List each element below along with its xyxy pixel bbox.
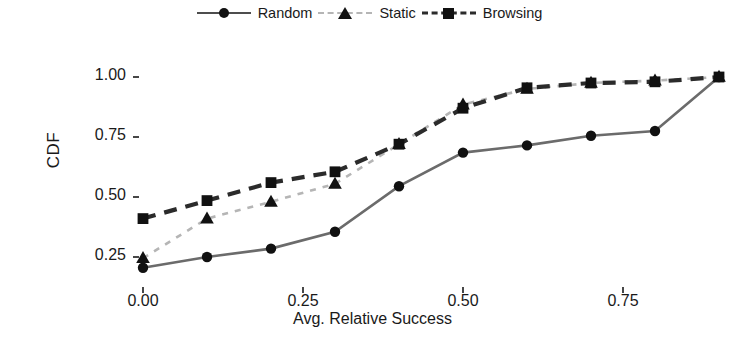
series-static	[143, 77, 719, 258]
data-point-circle	[394, 181, 404, 191]
y-tick-label: 0.50	[66, 186, 126, 204]
data-point-square	[714, 72, 725, 83]
series-line	[143, 77, 719, 268]
data-point-square	[650, 76, 661, 87]
data-point-square	[138, 213, 149, 224]
data-point-square	[586, 78, 597, 89]
y-axis-title: CDF	[44, 132, 64, 168]
series-browsing	[143, 77, 719, 219]
x-axis-title: Avg. Relative Success	[0, 310, 745, 328]
data-point-square	[330, 166, 341, 177]
data-point-circle	[202, 252, 212, 262]
markers-browsing	[138, 72, 725, 224]
data-point-triangle	[328, 177, 342, 189]
data-point-square	[522, 82, 533, 93]
series-random	[143, 77, 719, 268]
data-point-square	[458, 103, 469, 114]
data-point-square	[394, 139, 405, 150]
data-point-circle	[586, 131, 596, 141]
data-point-square	[202, 195, 213, 206]
x-tick-label: 0.25	[273, 292, 333, 310]
series-line	[143, 77, 719, 258]
y-tick-label: 0.25	[66, 246, 126, 264]
data-point-circle	[650, 126, 660, 136]
data-point-circle	[522, 140, 532, 150]
x-tick-label: 0.75	[593, 292, 653, 310]
data-point-circle	[330, 227, 340, 237]
x-tick-label: 0.00	[113, 292, 173, 310]
markers-static	[136, 70, 726, 263]
data-point-square	[266, 177, 277, 188]
y-tick-label: 0.75	[66, 126, 126, 144]
x-tick-label: 0.50	[433, 292, 493, 310]
data-point-circle	[138, 263, 148, 273]
square-marker-icon	[443, 8, 454, 19]
series-line	[143, 77, 719, 219]
chart-figure: Random Static Browsing CDF Avg. Relative…	[0, 0, 745, 349]
y-tick-label: 1.00	[66, 66, 126, 84]
markers-random	[138, 72, 724, 273]
circle-marker-icon	[219, 8, 229, 18]
data-point-circle	[266, 243, 276, 253]
triangle-marker-icon	[338, 7, 352, 19]
data-point-circle	[458, 147, 468, 157]
